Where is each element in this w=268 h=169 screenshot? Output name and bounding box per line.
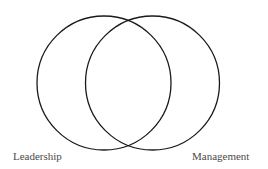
venn-diagram bbox=[0, 0, 268, 169]
leadership-label: Leadership bbox=[13, 150, 62, 162]
management-label: Management bbox=[192, 150, 249, 162]
